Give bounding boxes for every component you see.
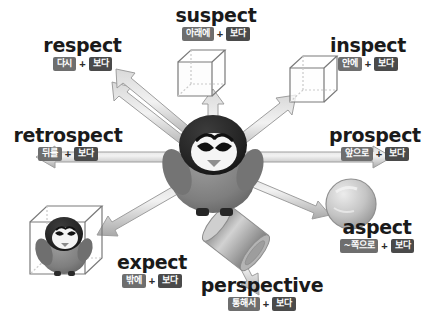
parts-suspect: 아래에 + 보다 — [166, 27, 266, 41]
root-tag-inspect: 보다 — [374, 57, 398, 71]
plus-suspect: + — [217, 29, 223, 40]
word-perspective: perspective — [200, 276, 324, 295]
spect-root-word-diagram: suspect 아래에 + 보다 respect 다시 + 보다 inspect… — [0, 0, 427, 325]
prefix-tag-prospect: 앞으로 — [341, 147, 372, 161]
object-cube-expect — [30, 206, 102, 276]
parts-respect: 다시 + 보다 — [31, 57, 134, 71]
label-retrospect: retrospect 뒤를 + 보다 — [10, 126, 126, 161]
label-suspect: suspect 아래에 + 보다 — [166, 6, 266, 41]
root-tag-retrospect: 보다 — [74, 147, 98, 161]
plus-perspective: + — [263, 299, 269, 310]
parts-expect: 밖에 + 보다 — [105, 274, 199, 288]
word-aspect: aspect — [327, 218, 427, 237]
label-inspect: inspect 안에 + 보다 — [318, 36, 418, 71]
word-respect: respect — [31, 36, 134, 55]
plus-expect: + — [149, 276, 155, 287]
parts-prospect: 앞으로 + 보다 — [323, 147, 427, 161]
prefix-tag-inspect: 안에 — [338, 57, 362, 71]
prefix-tag-expect: 밖에 — [122, 274, 146, 288]
plus-respect: + — [79, 59, 85, 70]
parts-perspective: 통해서 + 보다 — [200, 297, 324, 311]
label-prospect: prospect 앞으로 + 보다 — [323, 126, 427, 161]
word-inspect: inspect — [318, 36, 418, 55]
word-expect: expect — [105, 253, 199, 272]
prefix-tag-respect: 다시 — [53, 57, 77, 71]
parts-retrospect: 뒤를 + 보다 — [10, 147, 126, 161]
root-tag-prospect: 보다 — [385, 147, 409, 161]
word-prospect: prospect — [323, 126, 427, 145]
prefix-tag-aspect: ~쪽으로 — [340, 239, 379, 253]
parts-inspect: 안에 + 보다 — [318, 57, 418, 71]
prefix-tag-perspective: 통해서 — [228, 297, 259, 311]
root-tag-perspective: 보다 — [272, 297, 296, 311]
word-retrospect: retrospect — [10, 126, 126, 145]
label-respect: respect 다시 + 보다 — [31, 36, 134, 71]
plus-retrospect: + — [65, 149, 71, 160]
label-expect: expect 밖에 + 보다 — [105, 253, 199, 288]
object-cube-suspect — [178, 50, 225, 96]
plus-prospect: + — [376, 149, 382, 160]
label-aspect: aspect ~쪽으로 + 보다 — [327, 218, 427, 253]
root-tag-respect: 보다 — [89, 57, 113, 71]
plus-inspect: + — [365, 59, 371, 70]
root-tag-suspect: 보다 — [226, 27, 250, 41]
prefix-tag-retrospect: 뒤를 — [38, 147, 62, 161]
label-perspective: perspective 통해서 + 보다 — [200, 276, 324, 311]
word-suspect: suspect — [166, 6, 266, 25]
plus-aspect: + — [381, 241, 387, 252]
parts-aspect: ~쪽으로 + 보다 — [327, 239, 427, 253]
root-tag-aspect: 보다 — [391, 239, 415, 253]
prefix-tag-suspect: 아래에 — [182, 27, 213, 41]
root-tag-expect: 보다 — [158, 274, 182, 288]
